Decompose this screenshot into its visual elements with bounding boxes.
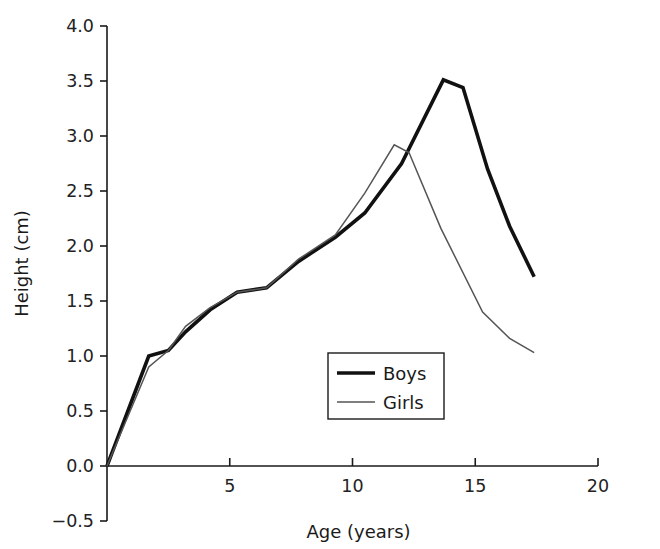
y-tick-label: 2.0 [66,236,94,256]
y-tick-label: 3.5 [66,71,94,91]
chart-figure: −0.50.00.51.01.52.02.53.03.54.0 5101520 … [0,0,660,549]
y-tick-label: 0.5 [66,401,94,421]
y-axis-title: Height (cm) [11,210,32,317]
y-tick-label: 0.0 [66,456,94,476]
legend-label-girls: Girls [383,392,424,413]
x-tick-label: 20 [587,476,609,496]
series-line-girls [107,145,534,466]
x-tick-label: 10 [341,476,363,496]
chart-legend: BoysGirls [328,353,444,419]
x-tick-label: 15 [464,476,486,496]
line-chart: −0.50.00.51.01.52.02.53.03.54.0 5101520 … [0,0,660,549]
y-axis-ticks [100,26,107,521]
y-tick-label: 2.5 [66,181,94,201]
x-axis-tick-labels: 5101520 [224,476,609,496]
y-axis-tick-labels: −0.50.00.51.01.52.02.53.03.54.0 [52,16,95,531]
y-tick-label: 1.5 [66,291,94,311]
x-tick-label: 5 [224,476,235,496]
series-lines [107,80,534,466]
x-axis-ticks [230,458,598,466]
legend-label-boys: Boys [383,363,426,384]
x-axis-title: Age (years) [306,521,410,542]
series-line-boys [107,80,534,466]
y-tick-label: 1.0 [66,346,94,366]
y-tick-label: 4.0 [66,16,94,36]
y-tick-label: 3.0 [66,126,94,146]
y-tick-label: −0.5 [52,511,95,531]
